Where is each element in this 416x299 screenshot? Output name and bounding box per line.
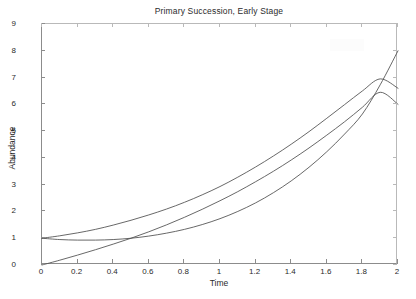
y-tick-label: 7 — [0, 72, 16, 81]
y-tick-mark-right — [393, 237, 397, 238]
x-tick-label: 0.8 — [163, 267, 203, 276]
x-tick-mark — [290, 259, 291, 264]
x-tick-mark-top — [361, 23, 362, 27]
curves-svg — [42, 24, 398, 265]
plot-area — [41, 23, 397, 264]
y-tick-mark-right — [393, 184, 397, 185]
y-tick-mark — [41, 50, 45, 51]
x-tick-mark — [361, 259, 362, 264]
x-tick-label: 1.8 — [341, 267, 381, 276]
x-tick-mark-top — [326, 23, 327, 27]
y-tick-mark-right — [393, 130, 397, 131]
y-tick-mark-right — [393, 264, 397, 265]
x-tick-mark-top — [148, 23, 149, 27]
chart-title: Primary Succession, Early Stage — [41, 6, 397, 16]
y-tick-mark-right — [393, 210, 397, 211]
x-tick-label: 0.4 — [92, 267, 132, 276]
y-tick-mark-right — [393, 77, 397, 78]
y-tick-mark-right — [393, 50, 397, 51]
y-tick-label: 2 — [0, 206, 16, 215]
figure-canvas: Primary Succession, Early Stage Abundanc… — [0, 0, 416, 299]
x-tick-mark — [255, 259, 256, 264]
y-tick-label: 4 — [0, 152, 16, 161]
y-tick-label: 0 — [0, 260, 16, 269]
series-line-upper-curve — [42, 79, 398, 238]
x-tick-label: 1.6 — [306, 267, 346, 276]
y-tick-mark-right — [393, 103, 397, 104]
x-tick-mark — [77, 259, 78, 264]
x-axis-label: Time — [41, 278, 397, 288]
x-tick-label: 1.2 — [235, 267, 275, 276]
y-tick-mark-right — [393, 157, 397, 158]
x-tick-mark-top — [112, 23, 113, 27]
x-tick-mark — [41, 259, 42, 264]
x-tick-mark — [183, 259, 184, 264]
y-tick-mark — [41, 157, 45, 158]
x-tick-mark-top — [219, 23, 220, 27]
y-tick-mark — [41, 264, 45, 265]
x-tick-mark — [112, 259, 113, 264]
y-tick-label: 9 — [0, 19, 16, 28]
x-tick-mark-top — [41, 23, 42, 27]
y-tick-mark — [41, 77, 45, 78]
y-tick-mark — [41, 210, 45, 211]
y-tick-label: 1 — [0, 233, 16, 242]
x-tick-label: 0.6 — [128, 267, 168, 276]
y-tick-mark — [41, 130, 45, 131]
x-tick-mark — [219, 259, 220, 264]
x-tick-label: 1 — [199, 267, 239, 276]
x-tick-mark — [397, 259, 398, 264]
series-group — [42, 51, 398, 265]
x-tick-mark — [148, 259, 149, 264]
y-tick-label: 5 — [0, 126, 16, 135]
y-tick-mark — [41, 184, 45, 185]
y-tick-mark — [41, 237, 45, 238]
x-tick-label: 1.4 — [270, 267, 310, 276]
series-line-middle-curve — [42, 51, 398, 240]
x-tick-label: 0 — [21, 267, 61, 276]
y-tick-label: 6 — [0, 99, 16, 108]
x-tick-mark-top — [183, 23, 184, 27]
x-tick-mark-top — [255, 23, 256, 27]
x-tick-label: 0.2 — [57, 267, 97, 276]
x-tick-mark-top — [77, 23, 78, 27]
y-tick-mark — [41, 103, 45, 104]
y-tick-label: 3 — [0, 179, 16, 188]
series-line-lower-curve — [42, 92, 398, 265]
x-tick-mark-top — [397, 23, 398, 27]
x-tick-mark — [326, 259, 327, 264]
y-tick-label: 8 — [0, 45, 16, 54]
y-axis-label: Abundance — [7, 108, 17, 188]
x-tick-label: 2 — [377, 267, 416, 276]
x-tick-mark-top — [290, 23, 291, 27]
